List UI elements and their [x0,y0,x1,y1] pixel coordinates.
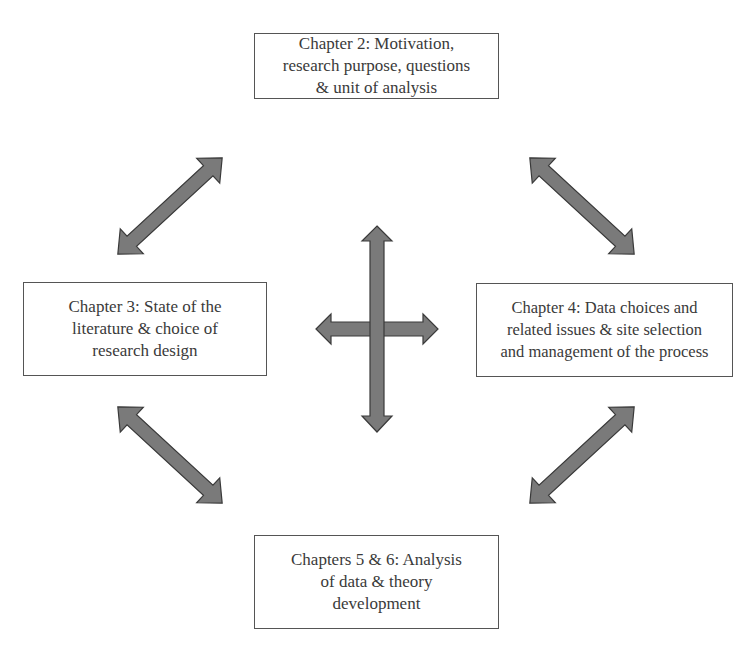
node-chapter-3-label: Chapter 3: State of the literature & cho… [69,296,222,362]
node-chapter-2-label: Chapter 2: Motivation, research purpose,… [283,33,470,99]
node-chapter-4-label: Chapter 4: Data choices and related issu… [500,297,708,363]
node-chapters-5-6: Chapters 5 & 6: Analysis of data & theor… [254,535,499,629]
node-chapter-3: Chapter 3: State of the literature & cho… [23,282,267,376]
node-chapter-4: Chapter 4: Data choices and related issu… [476,283,733,377]
double-arrow-bottom-right-icon [518,394,645,515]
double-arrow-top-right-icon [518,145,645,266]
double-arrow-top-left-icon [106,145,233,266]
research-process-diagram: Chapter 2: Motivation, research purpose,… [0,0,753,655]
node-chapters-5-6-label: Chapters 5 & 6: Analysis of data & theor… [291,549,462,615]
double-arrow-bottom-left-icon [106,394,233,515]
node-chapter-2: Chapter 2: Motivation, research purpose,… [254,33,499,99]
